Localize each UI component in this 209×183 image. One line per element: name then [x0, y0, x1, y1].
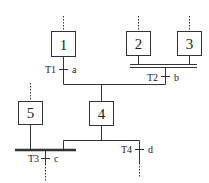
transition-t3-label: T3 — [28, 153, 39, 164]
step-3-label: 3 — [186, 36, 194, 52]
transition-t1-condition: a — [72, 64, 77, 75]
transition-t1-label: T1 — [45, 64, 56, 75]
transition-t3-condition: c — [54, 153, 59, 164]
step-1-label: 1 — [60, 37, 68, 53]
transition-t2-condition: b — [174, 72, 179, 83]
step-4-label: 4 — [98, 106, 106, 122]
transition-t4-label: T4 — [121, 144, 132, 155]
transition-t4-condition: d — [148, 144, 153, 155]
transition-t2-label: T2 — [147, 72, 158, 83]
step-2-label: 2 — [135, 36, 143, 52]
step-5-label: 5 — [27, 105, 35, 121]
grafcet-diagram: 1 2 3 4 5 T1 a T2 b T3 c T4 d — [0, 0, 209, 183]
